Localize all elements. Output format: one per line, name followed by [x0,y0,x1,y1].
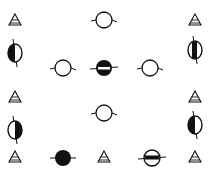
triangle-icon [98,151,110,162]
triangle-icon [9,14,21,25]
circle-half-vertical-icon [188,111,202,139]
circle-open-h-icon [91,105,117,121]
circle-half-vertical-icon [8,39,22,67]
triangle-icon [189,14,201,25]
circle-filled-icon [50,150,76,166]
circle-open-h-icon [50,60,76,76]
circle-half-horizontal-icon [90,60,118,76]
circle-half-vertical-icon [8,116,22,144]
triangle-icon [189,91,201,102]
triangle-icon [9,91,21,102]
circle-half-vertical-icon [188,36,202,64]
circle-open-h-icon [137,60,163,76]
triangle-icon [9,151,21,162]
symbol-diagram [0,0,212,169]
triangle-icon [189,151,201,162]
circle-band-horizontal-icon [138,150,166,166]
circle-open-h-icon [91,12,117,28]
